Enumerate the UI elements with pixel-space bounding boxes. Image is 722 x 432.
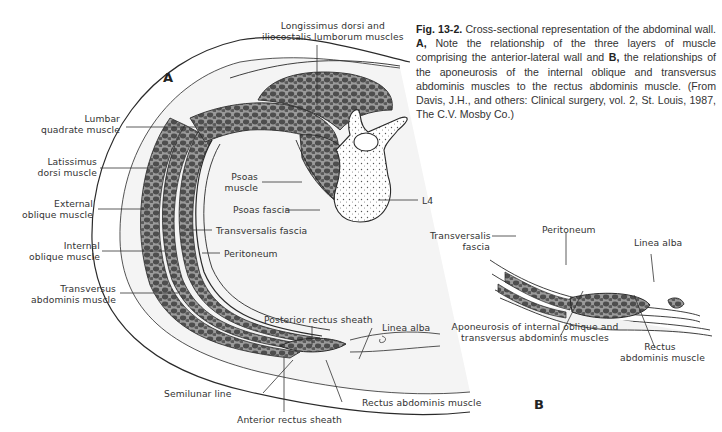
label-linea-alba: Linea alba [382, 322, 430, 333]
label-transversus-line1: Transversus [0, 283, 116, 294]
caption-a-marker: A, [416, 37, 427, 49]
label-lumbar-quadrate: Lumbar quadrate muscle [20, 113, 120, 135]
label-longissimus-line2: iliocostalis lumborum muscles [262, 31, 404, 42]
label-transversalis-fascia: Transversalis fascia [216, 225, 307, 236]
figure-number: Fig. 13-2. [416, 23, 462, 35]
label-b-transversalis-line2: fascia [430, 241, 490, 252]
label-peritoneum: Peritoneum [224, 248, 278, 259]
label-l4: L4 [422, 195, 433, 206]
label-psoas-line1: Psoas [200, 171, 258, 182]
label-b-transversalis-fascia: Transversalis fascia [430, 230, 490, 252]
label-psoas-fascia: Psoas fascia [233, 204, 290, 215]
label-semilunar-line: Semilunar line [164, 388, 232, 399]
label-internal-line1: Internal [0, 240, 100, 251]
panel-a-marker: A [163, 70, 173, 85]
label-transversus-line2: abdominis muscle [0, 294, 116, 305]
figure-caption: Fig. 13-2. Cross-sectional representatio… [416, 22, 716, 121]
label-internal-line2: oblique muscle [0, 251, 100, 262]
label-posterior-rectus-sheath: Posterior rectus sheath [264, 314, 373, 325]
label-internal-oblique: Internal oblique muscle [0, 240, 100, 262]
label-psoas-muscle: Psoas muscle [200, 171, 258, 193]
caption-b-marker: B, [609, 51, 620, 63]
label-b-rectus-line1: Rectus [620, 341, 700, 352]
label-b-rectus-abdominis: Rectus abdominis muscle [620, 341, 700, 363]
caption-intro: Cross-sectional representation of the ab… [462, 23, 716, 35]
label-b-peritoneum: Peritoneum [542, 224, 596, 235]
label-external-oblique: External oblique muscle [0, 198, 93, 220]
label-rectus-abdominis: Rectus abdominis muscle [362, 397, 481, 408]
label-latissimus-line1: Latissimus [0, 156, 97, 167]
label-b-rectus-line2: abdominis muscle [620, 352, 700, 363]
label-lumbar-line2: quadrate muscle [20, 124, 120, 135]
label-transversus-abdominis: Transversus abdominis muscle [0, 283, 116, 305]
label-b-transversalis-line1: Transversalis [430, 230, 490, 241]
label-b-linea-alba: Linea alba [634, 237, 682, 248]
label-b-aponeurosis-line1: Aponeurosis of internal oblique and [450, 321, 620, 332]
label-psoas-line2: muscle [200, 182, 258, 193]
label-external-line2: oblique muscle [0, 209, 93, 220]
label-latissimus-line2: dorsi muscle [0, 167, 97, 178]
label-b-aponeurosis: Aponeurosis of internal oblique and tran… [450, 321, 620, 343]
panel-b-marker: B [534, 397, 544, 412]
label-b-aponeurosis-line2: transversus abdominis muscles [450, 332, 620, 343]
label-longissimus-line1: Longissimus dorsi and [262, 20, 404, 31]
label-lumbar-line1: Lumbar [20, 113, 120, 124]
label-external-line1: External [0, 198, 93, 209]
label-longissimus: Longissimus dorsi and iliocostalis lumbo… [262, 20, 404, 42]
label-latissimus: Latissimus dorsi muscle [0, 156, 97, 178]
label-anterior-rectus-sheath: Anterior rectus sheath [237, 414, 342, 425]
